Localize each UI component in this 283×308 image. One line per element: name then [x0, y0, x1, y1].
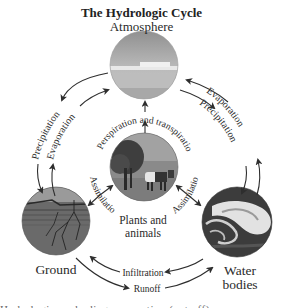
plants-label-line2: animals [100, 227, 186, 240]
atmosphere-image [108, 30, 180, 102]
label-infiltration: Infiltration [122, 268, 163, 278]
water-bodies-image [200, 186, 274, 260]
hydrologic-cycle-diagram: Precipitation Evaporation Evaporation Pr… [0, 0, 283, 308]
ground-image [20, 186, 92, 258]
water-label-line2: bodies [205, 278, 275, 292]
atmosphere-label: Atmosphere [0, 19, 283, 35]
water-bodies-label: Water bodies [205, 264, 275, 292]
plants-animals-label: Plants and animals [100, 214, 186, 240]
label-runoff: Runoff [134, 284, 162, 294]
water-label-line1: Water [205, 264, 275, 278]
ground-label: Ground [20, 262, 92, 278]
plants-label-line1: Plants and [100, 214, 186, 227]
plants-animals-image [108, 131, 180, 203]
cut-off-caption: Hydrologic cycle diagram caption (cut of… [0, 303, 283, 308]
